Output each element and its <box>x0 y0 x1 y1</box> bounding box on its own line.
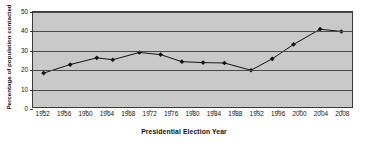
y-axis-title: Percentage of population contacted <box>2 4 14 110</box>
x-tick-mark <box>342 110 343 112</box>
data-point-marker <box>201 60 206 65</box>
x-tick-mark <box>85 110 86 112</box>
data-point-marker <box>179 59 184 64</box>
data-series-line <box>33 12 352 108</box>
y-tick-mark <box>30 31 33 32</box>
x-tick-mark <box>42 110 43 112</box>
y-tick-label: 20 <box>21 66 28 73</box>
y-axis-tick-labels: 01020304050 <box>14 5 30 111</box>
y-tick-label: 10 <box>21 85 28 92</box>
x-tick-mark <box>149 110 150 112</box>
gridline <box>33 51 352 52</box>
x-tick-mark <box>320 110 321 112</box>
x-tick-mark <box>192 110 193 112</box>
y-tick-mark <box>30 70 33 71</box>
x-tick-mark <box>235 110 236 112</box>
x-tick-mark <box>278 110 279 112</box>
data-point-marker <box>68 62 73 67</box>
x-axis-tick-labels: 1952195619601964196819721976198019841988… <box>32 110 353 122</box>
data-point-marker <box>110 57 115 62</box>
y-tick-label: 50 <box>21 7 28 14</box>
data-point-marker <box>94 55 99 60</box>
gridline <box>33 90 352 91</box>
data-point-marker <box>222 60 227 65</box>
line-chart-figure: Percentage of population contacted 01020… <box>0 0 368 146</box>
y-tick-mark <box>30 12 33 13</box>
gridline <box>33 70 352 71</box>
x-tick-mark <box>299 110 300 112</box>
x-tick-mark <box>256 110 257 112</box>
y-tick-mark <box>30 51 33 52</box>
x-tick-mark <box>171 110 172 112</box>
x-tick-mark <box>213 110 214 112</box>
y-tick-label: 30 <box>21 46 28 53</box>
x-tick-mark <box>128 110 129 112</box>
y-tick-label: 40 <box>21 27 28 34</box>
y-axis-title-text: Percentage of population contacted <box>5 4 12 109</box>
x-tick-mark <box>106 110 107 112</box>
y-tick-label: 0 <box>24 105 28 112</box>
gridline <box>33 12 352 13</box>
data-point-marker <box>158 52 163 57</box>
x-tick-mark <box>64 110 65 112</box>
plot-area <box>32 11 353 109</box>
gridline <box>33 31 352 32</box>
x-axis-title: Presidential Election Year <box>0 128 368 135</box>
y-tick-mark <box>30 90 33 91</box>
